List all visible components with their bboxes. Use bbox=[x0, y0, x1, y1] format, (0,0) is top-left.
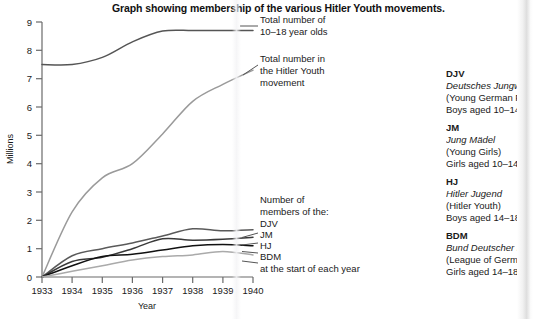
leader-jm bbox=[242, 243, 258, 245]
legend-german-jm: Jung Mädel bbox=[446, 134, 533, 146]
annot-key-hj: HJ bbox=[260, 240, 272, 251]
y-tick-4: 4 bbox=[27, 158, 32, 169]
x-tick-1935: 1935 bbox=[92, 285, 113, 296]
x-axis-ticks bbox=[42, 277, 253, 283]
annot-members-line-0: Number of bbox=[260, 194, 305, 205]
legend-german-djv: Deutsches Jungw bbox=[446, 80, 533, 92]
y-axis: 9 8 7 6 5 4 3 2 1 0 Millions bbox=[5, 17, 42, 283]
legend-abbr-bdm: BDM bbox=[446, 230, 533, 242]
legend-english-djv: (Young German F bbox=[446, 92, 533, 104]
legend-abbr-djv: DJV bbox=[446, 68, 533, 80]
chart-page: Graph showing membership of the various … bbox=[0, 0, 533, 319]
legend-abbr-jm: JM bbox=[446, 122, 533, 134]
x-tick-1934: 1934 bbox=[62, 285, 83, 296]
series-line-total-hitler-youth bbox=[42, 70, 253, 277]
y-tick-9: 9 bbox=[27, 17, 32, 28]
annot-start-of-year: at the start of each year bbox=[260, 263, 360, 274]
x-tick-1933: 1933 bbox=[31, 285, 52, 296]
legend-english-jm: (Young Girls) bbox=[446, 146, 533, 158]
legend-german-hj: Hitler Jugend bbox=[446, 188, 533, 200]
legend-group-bdm: BDM Bund Deutscher I (League of Germa Gi… bbox=[446, 230, 533, 278]
annot-members-line-1: members of the: bbox=[260, 206, 329, 217]
leader-hj bbox=[242, 252, 258, 254]
legend-german-bdm: Bund Deutscher I bbox=[446, 242, 533, 254]
x-tick-1937: 1937 bbox=[152, 285, 173, 296]
y-tick-7: 7 bbox=[27, 73, 32, 84]
y-tick-3: 3 bbox=[27, 187, 32, 198]
legend-group-hj: HJ Hitler Jugend (Hitler Youth) Boys age… bbox=[446, 176, 533, 224]
legend-english-bdm: (League of Germa bbox=[446, 254, 533, 266]
legend-group-djv: DJV Deutsches Jungw (Young German F Boys… bbox=[446, 68, 533, 116]
x-tick-1936: 1936 bbox=[122, 285, 143, 296]
x-axis: 1933 1934 1935 1936 1937 1938 1939 1940 … bbox=[31, 277, 263, 311]
legend-group-jm: JM Jung Mädel (Young Girls) Girls aged 1… bbox=[446, 122, 533, 170]
legend-english-hj: (Hitler Youth) bbox=[446, 200, 533, 212]
x-tick-1938: 1938 bbox=[182, 285, 203, 296]
annot-key-djv: DJV bbox=[260, 218, 279, 229]
y-tick-8: 8 bbox=[27, 45, 32, 56]
annotation-total-10-18: Total number of 10–18 year olds bbox=[260, 14, 328, 37]
legend-abbr-hj: HJ bbox=[446, 176, 533, 188]
legend-ages-djv: Boys aged 10–14 bbox=[446, 104, 533, 116]
series-lines bbox=[42, 30, 253, 277]
annot-hy-line-1: the Hitler Youth bbox=[260, 65, 324, 76]
y-axis-title: Millions bbox=[5, 134, 15, 165]
membership-line-chart: 9 8 7 6 5 4 3 2 1 0 Millions bbox=[0, 12, 440, 319]
y-tick-0: 0 bbox=[27, 272, 32, 283]
annot-key-jm: JM bbox=[260, 229, 273, 240]
legend-ages-jm: Girls aged 10–14 bbox=[446, 158, 533, 170]
y-axis-ticks bbox=[36, 22, 42, 277]
leader-total-hitler-youth bbox=[243, 65, 258, 75]
legend-ages-bdm: Girls aged 14–18 bbox=[446, 266, 533, 278]
series-line-total-10-18 bbox=[42, 30, 253, 65]
annotation-leaders bbox=[240, 26, 258, 263]
y-tick-1: 1 bbox=[27, 243, 32, 254]
leader-bdm bbox=[242, 261, 258, 263]
abbreviation-legend: DJV Deutsches Jungw (Young German F Boys… bbox=[446, 68, 533, 284]
legend-ages-hj: Boys aged 14–18 bbox=[446, 212, 533, 224]
annot-hy-line-0: Total number in bbox=[260, 53, 325, 64]
annot-hy-line-2: movement bbox=[260, 77, 305, 88]
annot-total-10-18-line-0: Total number of bbox=[260, 14, 326, 25]
y-tick-5: 5 bbox=[27, 130, 32, 141]
annotation-total-hitler-youth: Total number in the Hitler Youth movemen… bbox=[260, 53, 325, 88]
annot-key-bdm: BDM bbox=[260, 251, 281, 262]
annot-total-10-18-line-1: 10–18 year olds bbox=[260, 26, 328, 37]
y-tick-6: 6 bbox=[27, 102, 32, 113]
annotation-members-key: Number of members of the: DJV JM HJ BDM … bbox=[260, 194, 360, 274]
x-axis-title: Year bbox=[138, 301, 156, 311]
y-tick-2: 2 bbox=[27, 215, 32, 226]
chart-plot-area: 9 8 7 6 5 4 3 2 1 0 Millions bbox=[0, 12, 440, 319]
x-tick-1940: 1940 bbox=[242, 285, 263, 296]
x-tick-1939: 1939 bbox=[212, 285, 233, 296]
